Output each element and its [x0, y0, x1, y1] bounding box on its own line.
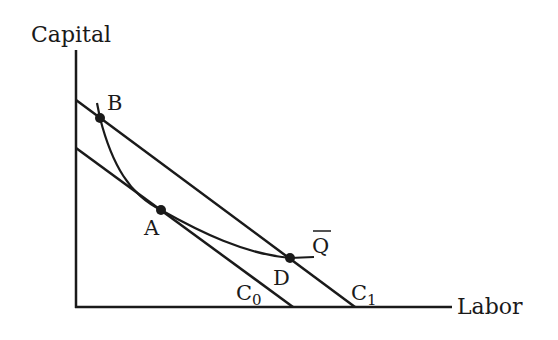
point-b: [95, 113, 105, 123]
point-b-label: B: [107, 91, 122, 115]
isoquant-diagram: Capital Labor B A D Q C0 C1: [0, 0, 558, 340]
point-a-label: A: [143, 216, 160, 240]
isoquant-curve: [97, 103, 314, 258]
point-a: [156, 205, 166, 215]
x-axis-label: Labor: [457, 294, 523, 319]
isoquant-label: Q: [312, 234, 329, 258]
isocost-c1-label: C1: [351, 281, 377, 309]
isocost-c0-label: C0: [236, 281, 262, 309]
isocost-line-c0: [76, 148, 293, 307]
isocost-line-c1: [76, 100, 355, 307]
point-d-label: D: [273, 266, 290, 290]
point-d: [285, 253, 295, 263]
y-axis-label: Capital: [31, 22, 111, 47]
